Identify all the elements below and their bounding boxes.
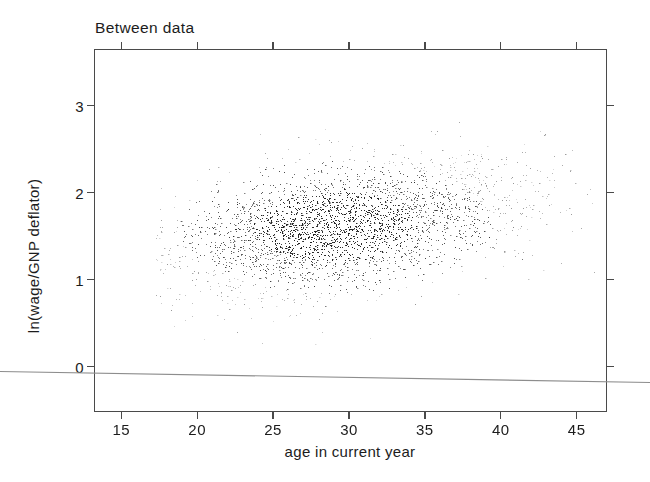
x-tick-top-40: [500, 42, 501, 49]
x-tick-label-45: 45: [568, 421, 586, 438]
x-tick-bottom-15: [121, 412, 122, 419]
x-tick-bottom-30: [348, 412, 349, 419]
y-tick-left-1: [87, 279, 94, 280]
x-tick-label-20: 20: [188, 421, 206, 438]
x-tick-top-45: [576, 42, 577, 49]
x-tick-top-35: [424, 42, 425, 49]
y-tick-label-0: 0: [75, 358, 84, 375]
y-tick-left-3: [87, 105, 94, 106]
x-tick-bottom-35: [424, 412, 425, 419]
y-tick-left-2: [87, 192, 94, 193]
y-tick-label-3: 3: [75, 97, 84, 114]
y-tick-right-0: [607, 366, 614, 367]
x-tick-top-30: [348, 42, 349, 49]
x-tick-bottom-45: [576, 412, 577, 419]
x-tick-label-30: 30: [340, 421, 358, 438]
plot-title: Between data: [95, 19, 195, 37]
scatter-plot-figure: Between data 152025303540450123 age in c…: [0, 0, 650, 482]
x-tick-top-20: [197, 42, 198, 49]
x-tick-top-25: [272, 42, 273, 49]
x-tick-label-25: 25: [264, 421, 282, 438]
x-tick-top-15: [121, 42, 122, 49]
y-tick-right-1: [607, 279, 614, 280]
y-tick-left-0: [87, 366, 94, 367]
scatter-point-cloud: [95, 50, 608, 413]
x-tick-label-40: 40: [492, 421, 510, 438]
x-tick-label-15: 15: [112, 421, 130, 438]
x-axis-label: age in current year: [285, 443, 416, 460]
y-tick-label-1: 1: [75, 271, 84, 288]
y-tick-right-3: [607, 105, 614, 106]
plot-frame: [94, 49, 607, 412]
x-tick-bottom-25: [272, 412, 273, 419]
x-tick-label-35: 35: [416, 421, 434, 438]
x-tick-bottom-40: [500, 412, 501, 419]
y-axis-label: ln(wage/GNP deflator): [25, 179, 42, 333]
x-tick-bottom-20: [197, 412, 198, 419]
y-tick-right-2: [607, 192, 614, 193]
y-tick-label-2: 2: [75, 184, 84, 201]
